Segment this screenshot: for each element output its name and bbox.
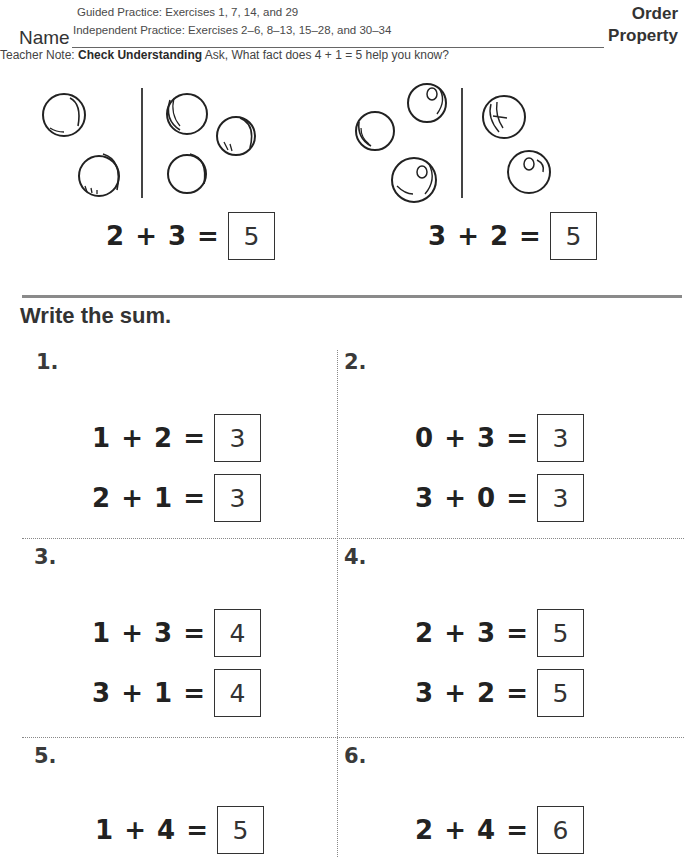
answer-box[interactable]: 5 bbox=[550, 212, 597, 260]
exercise-2: 2. 0 + 3 = 3 3 + 0 = 3 bbox=[338, 340, 698, 538]
answer-value: 4 bbox=[230, 679, 246, 708]
answer-value: 5 bbox=[243, 222, 259, 251]
equation-text: 1 + 3 = bbox=[92, 618, 206, 648]
cabbage-icon bbox=[405, 80, 451, 126]
exercise-6: 6. 2 + 4 = 6 bbox=[338, 738, 698, 857]
equation-text: 2 + 4 = bbox=[415, 815, 529, 845]
teacher-note-prefix: Teacher Note: bbox=[0, 48, 78, 62]
answer-box[interactable]: 5 bbox=[537, 609, 584, 657]
name-label: Name bbox=[19, 27, 70, 49]
exercise-number: 3. bbox=[34, 545, 57, 569]
equation-text: 3 + 1 = bbox=[92, 678, 206, 708]
answer-box[interactable]: 3 bbox=[214, 414, 261, 462]
equation-text: 1 + 2 = bbox=[92, 423, 206, 453]
equation-text: 2 + 3 = bbox=[415, 618, 529, 648]
section-divider bbox=[22, 295, 682, 298]
answer-box[interactable]: 5 bbox=[228, 212, 275, 260]
equation-text: 0 + 3 = bbox=[415, 423, 529, 453]
equation-row: 2 + 3 = 5 bbox=[415, 609, 584, 657]
answer-value: 5 bbox=[553, 679, 569, 708]
example-picture-1: 2 + 3 = 5 bbox=[0, 70, 345, 270]
equation-text: 3 + 0 = bbox=[415, 483, 529, 513]
equation-row: 3 + 1 = 4 bbox=[92, 669, 261, 717]
guided-practice-note: Guided Practice: Exercises 1, 7, 14, and… bbox=[77, 6, 298, 18]
equation-row: 2 + 1 = 3 bbox=[92, 474, 261, 522]
example-equation-2: 3 + 2 = 5 bbox=[428, 212, 597, 260]
answer-value: 5 bbox=[565, 222, 581, 251]
answer-value: 3 bbox=[553, 484, 569, 513]
example-equation-1: 2 + 3 = 5 bbox=[106, 212, 275, 260]
section-title: Write the sum. bbox=[20, 303, 171, 329]
group-divider bbox=[461, 88, 463, 198]
equation-row: 1 + 2 = 3 bbox=[92, 414, 261, 462]
answer-value: 3 bbox=[230, 424, 246, 453]
answer-box[interactable]: 6 bbox=[537, 806, 584, 854]
cabbage-icon bbox=[77, 150, 127, 198]
exercise-1: 1. 1 + 2 = 3 2 + 1 = 3 bbox=[0, 340, 337, 538]
exercise-number: 4. bbox=[344, 545, 367, 569]
cabbage-icon bbox=[166, 148, 214, 196]
lesson-title-line2: Property bbox=[608, 26, 678, 46]
exercise-number: 6. bbox=[344, 744, 367, 768]
cabbage-icon bbox=[353, 108, 399, 154]
answer-box[interactable]: 3 bbox=[214, 474, 261, 522]
answer-value: 3 bbox=[230, 484, 246, 513]
answer-box[interactable]: 5 bbox=[537, 669, 584, 717]
teacher-note-bold: Check Understanding bbox=[78, 48, 202, 62]
lesson-title-line1: Order bbox=[632, 4, 678, 24]
exercise-number: 2. bbox=[344, 350, 367, 374]
teacher-note-text: Ask, What fact does 4 + 1 = 5 help you k… bbox=[202, 48, 449, 62]
cabbage-icon bbox=[505, 148, 555, 196]
group-divider bbox=[141, 88, 143, 198]
answer-box[interactable]: 5 bbox=[217, 806, 264, 854]
answer-box[interactable]: 4 bbox=[214, 609, 261, 657]
answer-value: 5 bbox=[553, 619, 569, 648]
equation-row: 3 + 0 = 3 bbox=[415, 474, 584, 522]
independent-practice-note: Independent Practice: Exercises 2–6, 8–1… bbox=[73, 24, 391, 36]
equation-text: 3 + 2 = bbox=[415, 678, 529, 708]
answer-box[interactable]: 3 bbox=[537, 474, 584, 522]
equation-text: 3 + 2 = bbox=[428, 221, 542, 251]
answer-value: 3 bbox=[553, 424, 569, 453]
cabbage-icon bbox=[481, 92, 529, 142]
answer-value: 4 bbox=[230, 619, 246, 648]
teacher-note: Teacher Note: Check Understanding Ask, W… bbox=[0, 48, 449, 62]
equation-row: 3 + 2 = 5 bbox=[415, 669, 584, 717]
cabbage-icon bbox=[40, 90, 90, 140]
equation-text: 1 + 4 = bbox=[95, 815, 209, 845]
equation-row: 0 + 3 = 3 bbox=[415, 414, 584, 462]
example-picture-2: 3 + 2 = 5 bbox=[345, 70, 698, 270]
answer-value: 6 bbox=[553, 816, 569, 845]
exercise-number: 5. bbox=[34, 744, 57, 768]
equation-text: 2 + 1 = bbox=[92, 483, 206, 513]
equation-text: 2 + 3 = bbox=[106, 221, 220, 251]
answer-value: 5 bbox=[233, 816, 249, 845]
exercise-number: 1. bbox=[36, 350, 59, 374]
exercise-3: 3. 1 + 3 = 4 3 + 1 = 4 bbox=[0, 539, 337, 737]
equation-row: 1 + 3 = 4 bbox=[92, 609, 261, 657]
exercise-4: 4. 2 + 3 = 5 3 + 2 = 5 bbox=[338, 539, 698, 737]
cabbage-icon bbox=[160, 90, 210, 138]
cabbage-icon bbox=[214, 112, 262, 160]
cabbage-icon bbox=[389, 154, 441, 206]
answer-box[interactable]: 3 bbox=[537, 414, 584, 462]
answer-box[interactable]: 4 bbox=[214, 669, 261, 717]
equation-row: 2 + 4 = 6 bbox=[415, 806, 584, 854]
exercise-5: 5. 1 + 4 = 5 bbox=[0, 738, 337, 857]
equation-row: 1 + 4 = 5 bbox=[95, 806, 264, 854]
